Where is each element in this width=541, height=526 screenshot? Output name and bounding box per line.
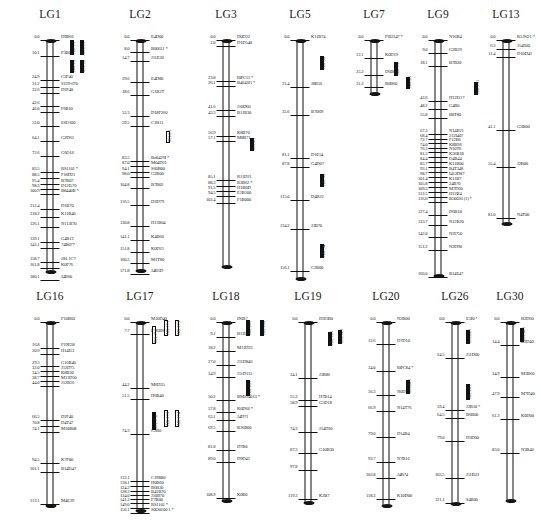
locus-marker-name: BM294013 * — [237, 395, 260, 400]
locus-tick-icon — [446, 322, 465, 323]
qtl-bar: ASL18.2 — [260, 320, 264, 336]
locus-marker-name: D4T47 — [61, 421, 73, 426]
locus-position: 89.0 — [208, 457, 215, 462]
qtl-label: ASL17.2 — [177, 320, 181, 335]
locus-tick-icon — [131, 503, 150, 504]
qtl-label: TSL17.1 — [154, 329, 158, 343]
locus-position: 34.9 — [208, 372, 215, 377]
locus-position: 101.1 — [30, 467, 40, 472]
locus-tick-icon — [41, 432, 60, 433]
locus-position: 57.8 — [208, 407, 215, 412]
locus-tick-icon — [299, 400, 318, 401]
locus-position: 69.5 — [208, 426, 215, 431]
locus-marker-name: K0B0 — [237, 493, 247, 498]
locus-tick-icon — [131, 499, 150, 500]
locus-position: 9.2 — [210, 332, 215, 337]
locus-tick-icon — [446, 410, 465, 411]
locus-tick-icon — [299, 499, 318, 500]
locus-tick-icon — [131, 322, 150, 323]
locus-marker-name: S0O0100 1 * — [151, 508, 174, 513]
qtl-bar: ASL18.1 — [246, 320, 250, 336]
locus-position: 0.0 — [439, 317, 444, 322]
locus-marker-name: C2B0 — [151, 429, 161, 434]
locus-tick-icon — [217, 337, 236, 338]
chromosome-bar — [47, 322, 54, 507]
locus-position: 103.8 — [366, 473, 376, 478]
locus-marker-name: B6B00 — [466, 413, 478, 418]
locus-marker-name: F10B60 — [61, 317, 75, 322]
locus-position: 51.5 — [122, 394, 129, 399]
locus-position: 20.9 — [32, 349, 39, 354]
locus-marker-name: D9D41 — [237, 457, 250, 462]
locus-marker-name: D3D00 — [466, 436, 479, 441]
locus-tick-icon — [299, 453, 318, 454]
locus-position: 113.1 — [30, 499, 39, 504]
locus-tick-icon — [377, 411, 396, 412]
locus-tick-icon — [41, 426, 60, 427]
locus-tick-icon — [377, 395, 396, 396]
qtl-bar: TSL30.1 — [520, 328, 524, 342]
locus-tick-icon — [131, 334, 150, 335]
locus-position: 74.3 — [290, 427, 297, 432]
locus-tick-icon — [217, 351, 236, 352]
locus-position: 81.8 — [208, 445, 215, 450]
locus-tick-icon — [446, 478, 465, 479]
locus-tick-icon — [217, 412, 236, 413]
qtl-label: ASL26.1 — [468, 384, 472, 399]
locus-tick-icon — [299, 470, 318, 471]
chromosome-bar — [383, 322, 390, 507]
locus-position: 74.1 — [32, 427, 39, 432]
locus-tick-icon — [501, 453, 520, 454]
locus-marker-name: J14D30 — [319, 427, 332, 432]
locus-marker-name: J11D115 — [237, 372, 252, 377]
locus-position: 66.9 — [368, 406, 375, 411]
locus-tick-icon — [41, 504, 60, 505]
qtl-bar: TSL20.1 — [406, 380, 410, 394]
locus-tick-icon — [41, 420, 60, 421]
locus-tick-icon — [377, 437, 396, 438]
locus-position: 108.9 — [206, 493, 216, 498]
linkage-group-lg16: LG160.0F10B6016.8F19E3820.9H14I1329.3G16… — [4, 0, 96, 526]
linkage-map-canvas: LG10.0D9B6610.1F3B0024.9C2F4031.2S129-67… — [0, 0, 541, 526]
locus-tick-icon — [377, 371, 396, 372]
locus-marker-name: G5D18 — [319, 401, 332, 406]
linkage-group-title: LG30 — [480, 290, 540, 302]
locus-tick-icon — [131, 388, 150, 389]
qtl-label: ASL18.3 — [248, 380, 252, 395]
linkage-group-lg18: LG180.0D6B79.2B11I4718.2M11D2327.0J11D84… — [184, 0, 268, 526]
locus-position: 64.5 — [437, 413, 444, 418]
qtl-bar: ASL18.3 — [246, 380, 250, 396]
locus-tick-icon — [131, 481, 150, 482]
qtl-bar: TSL19.1 — [338, 330, 342, 344]
locus-position: 156.1 — [120, 508, 130, 513]
locus-marker-name: K7F00 — [61, 458, 73, 463]
locus-tick-icon — [131, 495, 150, 496]
locus-tick-icon — [446, 441, 465, 442]
locus-tick-icon — [41, 348, 60, 349]
linkage-group-title: LG16 — [4, 290, 96, 302]
chromosome-bar — [137, 322, 144, 512]
locus-marker-name: B14I547 — [61, 467, 76, 472]
locus-position: 58.9 — [290, 401, 297, 406]
locus-marker-name: M6D35 — [151, 383, 165, 388]
locus-tick-icon — [377, 344, 396, 345]
locus-position: 7.7 — [124, 329, 129, 334]
linkage-group-lg20: LG200.0N2B0012.6D7D1034.0I0PC84 *56.3N0D… — [348, 0, 424, 526]
locus-tick-icon — [501, 345, 520, 346]
locus-marker-name: S4B00 — [466, 498, 478, 503]
locus-position: 18.2 — [208, 346, 215, 351]
qtl-label: ASL18.2 — [262, 320, 266, 335]
qtl-label: ASL19.1 — [330, 330, 334, 345]
locus-tick-icon — [501, 322, 520, 323]
locus-tick-icon — [41, 472, 60, 473]
qtl-label: TSL30.1 — [522, 327, 526, 341]
locus-tick-icon — [501, 397, 520, 398]
qtl-label: ASL17.4 — [177, 411, 181, 426]
locus-position: 63.1 — [208, 415, 215, 420]
locus-position: 0.0 — [124, 317, 129, 322]
locus-tick-icon — [217, 450, 236, 451]
locus-tick-icon — [217, 431, 236, 432]
locus-marker-name: D14B4 — [397, 432, 410, 437]
locus-marker-name: K10D00 — [397, 494, 412, 499]
locus-position: 70.8 — [32, 421, 39, 426]
